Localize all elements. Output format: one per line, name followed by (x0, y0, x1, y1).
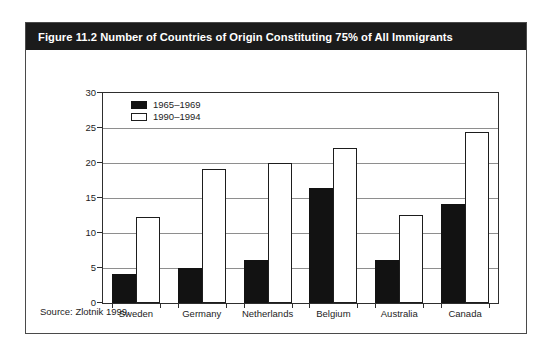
figure-card: Figure 11.2 Number of Countries of Origi… (25, 22, 527, 334)
legend-item: 1990–1994 (131, 111, 201, 122)
bar-group (441, 93, 489, 303)
legend-label: 1965–1969 (153, 99, 201, 110)
y-axis-tick-label: 5 (91, 262, 96, 273)
chart-legend: 1965–19691990–1994 (128, 96, 207, 125)
bar (136, 217, 160, 303)
bar (112, 274, 136, 303)
y-axis-tick-mark (97, 267, 102, 268)
bar (465, 132, 489, 304)
legend-item: 1965–1969 (131, 99, 201, 110)
bar (202, 169, 226, 303)
y-axis-tick-label: 20 (85, 157, 96, 168)
figure-title: Figure 11.2 Number of Countries of Origi… (38, 31, 453, 43)
y-axis-tick-mark (97, 92, 102, 93)
x-axis-tick-label: Belgium (316, 308, 350, 319)
y-axis-tick-mark (97, 197, 102, 198)
bar-group (375, 93, 423, 303)
x-axis-tick-label: Netherlands (242, 308, 293, 319)
y-axis-tick-mark (97, 127, 102, 128)
y-axis-tick-labels: 051015202530 (70, 92, 96, 304)
bar (375, 260, 399, 303)
plot-area: 051015202530 SwedenGermanyNetherlandsBel… (26, 50, 526, 333)
legend-label: 1990–1994 (153, 111, 201, 122)
x-axis-tick-label: Canada (448, 308, 481, 319)
bar (309, 188, 333, 303)
bar (178, 268, 202, 303)
bar (399, 215, 423, 303)
legend-swatch (131, 113, 147, 121)
bar-group (244, 93, 292, 303)
source-note: Source: Zlotnik 1999. (40, 306, 130, 317)
y-axis-tick-mark (97, 232, 102, 233)
bar-group (309, 93, 357, 303)
y-axis-tick-label: 15 (85, 192, 96, 203)
bar (333, 148, 357, 303)
y-axis-tick-label: 25 (85, 122, 96, 133)
bar (244, 260, 268, 303)
x-axis-tick-label: Germany (182, 308, 221, 319)
x-axis-tick-label: Australia (381, 308, 418, 319)
bar (441, 204, 465, 303)
y-axis-tick-mark (97, 162, 102, 163)
x-axis-tick-labels: SwedenGermanyNetherlandsBelgiumAustralia… (103, 308, 498, 324)
y-axis-tick-mark (97, 302, 102, 303)
figure-title-bar: Figure 11.2 Number of Countries of Origi… (26, 23, 526, 50)
bar (268, 163, 292, 303)
y-axis-tick-label: 30 (85, 87, 96, 98)
y-axis-tick-label: 10 (85, 227, 96, 238)
legend-swatch (131, 101, 147, 109)
